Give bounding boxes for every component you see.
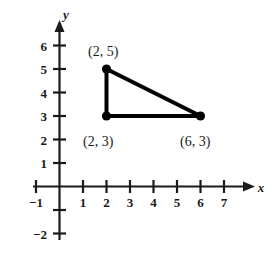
point-label-6-3: (6, 3): [180, 134, 211, 150]
y-tick-label: 6: [41, 39, 48, 54]
y-tick-label: 4: [41, 86, 48, 101]
point-labels: (2, 5) (2, 3) (6, 3): [83, 44, 211, 150]
x-tick-label: 3: [127, 195, 134, 210]
y-axis-label: y: [61, 7, 69, 22]
x-axis-arrowhead: [243, 182, 255, 192]
vertex-point-2-5: [102, 64, 111, 73]
x-tick-label: 7: [221, 195, 228, 210]
x-tick-label: 6: [197, 195, 204, 210]
y-tick-label: 2: [41, 133, 48, 148]
triangle-side-hypotenuse: [107, 69, 201, 116]
y-tick-label: −2: [33, 227, 47, 242]
coordinate-plane-figure: −1 1 2 3 4 5 6 7 6 5 4 3 2 1 −2 x y: [0, 0, 275, 263]
x-tick-label: 5: [174, 195, 181, 210]
y-tick-label: 5: [41, 62, 48, 77]
vertex-point-2-3: [102, 111, 111, 120]
x-tick-label: 1: [80, 195, 87, 210]
point-label-2-3: (2, 3): [83, 134, 114, 150]
x-tick-label: 2: [103, 195, 110, 210]
triangle-shape: [102, 64, 205, 120]
graph-svg: −1 1 2 3 4 5 6 7 6 5 4 3 2 1 −2 x y: [0, 0, 275, 263]
x-axis-label: x: [257, 180, 265, 195]
point-label-2-5: (2, 5): [88, 44, 119, 60]
y-tick-labels: 6 5 4 3 2 1 −2: [33, 39, 47, 242]
y-tick-label: 3: [41, 109, 48, 124]
x-tick-label: 4: [150, 195, 157, 210]
vertex-point-6-3: [196, 111, 205, 120]
x-tick-label: −1: [29, 195, 43, 210]
y-tick-label: 1: [41, 156, 48, 171]
